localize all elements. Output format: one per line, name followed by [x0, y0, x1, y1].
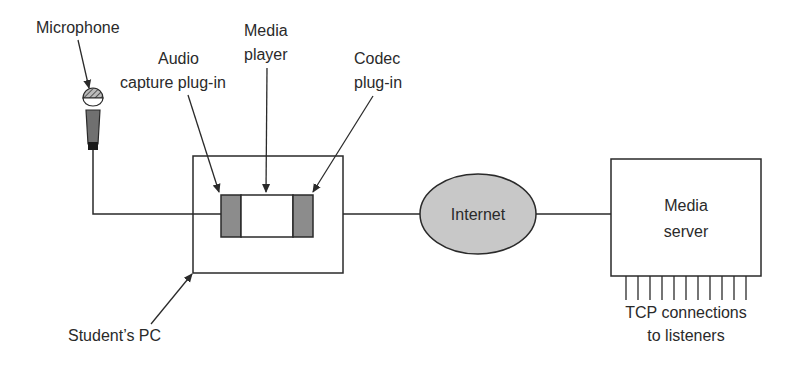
- media-player-label-line2: player: [244, 46, 288, 63]
- audio-capture-label-line2: capture plug-in: [120, 74, 226, 91]
- tcp-label-line2: to listeners: [647, 327, 724, 344]
- internet-label: Internet: [451, 206, 506, 223]
- media-server-box: [611, 159, 761, 276]
- students-pc-label: Student’s PC: [68, 327, 161, 344]
- media-player-box: [221, 195, 313, 237]
- microphone-icon: [83, 88, 103, 150]
- mic-cable: [93, 150, 221, 214]
- audio-capture-label-line1: Audio: [158, 50, 199, 67]
- media-player-arrow: [266, 68, 267, 192]
- media-server-label-line1: Media: [664, 197, 708, 214]
- media-player-core: [241, 195, 293, 237]
- media-server-label-line2: server: [664, 223, 709, 240]
- microphone-label: Microphone: [36, 19, 120, 36]
- streaming-diagram: Microphone Audio capture plug-in Media p…: [0, 0, 806, 367]
- tcp-connections: [626, 276, 746, 300]
- codec-label-line2: plug-in: [354, 74, 402, 91]
- students-pc-arrow: [151, 274, 192, 324]
- codec-label-line1: Codec: [354, 50, 400, 67]
- codec-plugin: [293, 195, 313, 237]
- tcp-label-line1: TCP connections: [625, 304, 747, 321]
- media-player-label-line1: Media: [244, 22, 288, 39]
- microphone-arrow: [78, 40, 89, 88]
- audio-capture-plugin: [221, 195, 241, 237]
